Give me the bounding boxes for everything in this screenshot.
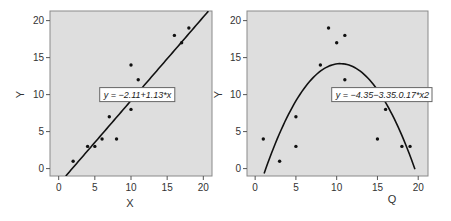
x-tick-label: 10 <box>331 182 343 193</box>
x-tick-label: 15 <box>372 182 384 193</box>
right-panel: 0510152005101520YQy = −4.35−3.35.0.17*x2 <box>212 11 432 205</box>
data-point <box>108 115 111 118</box>
data-point <box>100 137 103 140</box>
data-point <box>408 145 411 148</box>
y-axis-label: Y <box>212 90 224 98</box>
data-point <box>278 160 281 163</box>
x-axis-label: X <box>126 197 134 209</box>
data-point <box>129 63 132 66</box>
x-tick-label: 20 <box>413 182 425 193</box>
equation-label: y = −2.11+1.13*x <box>100 88 175 102</box>
data-point <box>71 160 74 163</box>
data-point <box>173 34 176 37</box>
x-tick-label: 0 <box>56 182 62 193</box>
x-tick-label: 5 <box>293 182 299 193</box>
y-tick-label: 0 <box>235 163 241 174</box>
equation-text: y = −4.35−3.35.0.17*x2 <box>335 90 429 100</box>
x-tick-label: 15 <box>162 182 174 193</box>
data-point <box>343 34 346 37</box>
data-point <box>384 108 387 111</box>
data-point <box>335 41 338 44</box>
y-tick-label: 10 <box>33 89 45 100</box>
data-point <box>294 145 297 148</box>
data-point <box>343 78 346 81</box>
data-point <box>376 137 379 140</box>
y-tick-label: 5 <box>235 126 241 137</box>
scatter-plots: 0510152005101520YXy = −2.11+1.13*x 05101… <box>0 0 451 221</box>
y-tick-label: 15 <box>230 52 242 63</box>
y-tick-label: 0 <box>38 163 44 174</box>
x-axis-label: Q <box>388 193 397 205</box>
y-tick-label: 20 <box>230 15 242 26</box>
left-panel: 0510152005101520YXy = −2.11+1.13*x <box>14 11 212 209</box>
x-tick-label: 10 <box>125 182 137 193</box>
x-tick-label: 5 <box>92 182 98 193</box>
data-point <box>115 137 118 140</box>
data-point <box>86 145 89 148</box>
y-tick-label: 10 <box>230 89 242 100</box>
equation-text: y = −2.11+1.13*x <box>103 90 172 100</box>
data-point <box>180 41 183 44</box>
data-point <box>294 115 297 118</box>
data-point <box>129 108 132 111</box>
data-point <box>400 145 403 148</box>
figure: 0510152005101520YXy = −2.11+1.13*x 05101… <box>0 0 451 221</box>
y-tick-label: 5 <box>38 126 44 137</box>
x-tick-label: 0 <box>252 182 258 193</box>
x-tick-label: 20 <box>198 182 210 193</box>
data-point <box>137 78 140 81</box>
y-tick-label: 20 <box>33 15 45 26</box>
equation-label: y = −4.35−3.35.0.17*x2 <box>332 88 432 102</box>
y-axis-label: Y <box>14 90 26 98</box>
data-point <box>93 145 96 148</box>
data-point <box>187 26 190 29</box>
data-point <box>327 26 330 29</box>
data-point <box>319 63 322 66</box>
data-point <box>262 137 265 140</box>
y-tick-label: 15 <box>33 52 45 63</box>
